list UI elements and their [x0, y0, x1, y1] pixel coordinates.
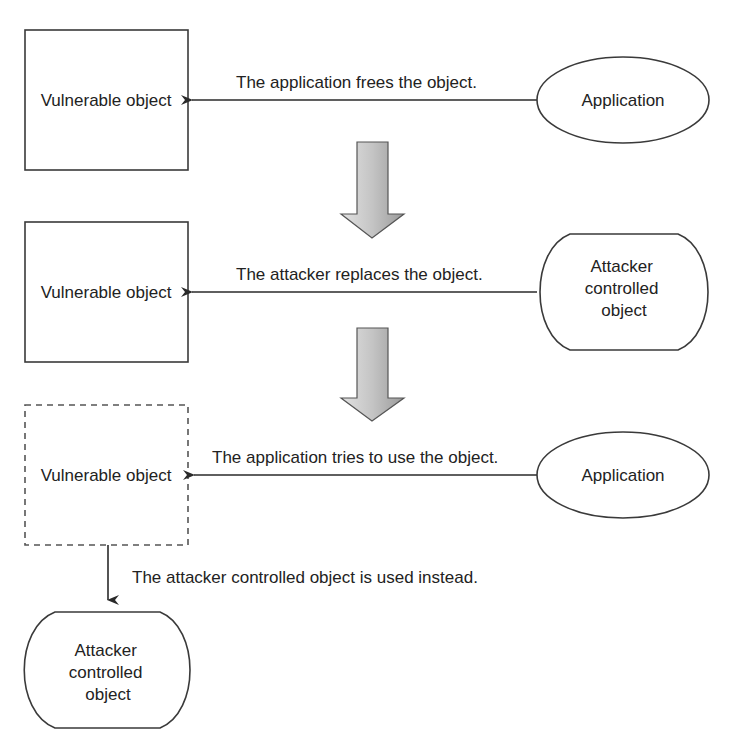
application-label-1: Application	[581, 91, 664, 110]
attacker-object-line: controlled	[69, 663, 143, 682]
attacker-object-line: object	[85, 685, 131, 704]
attacker-object-line: Attacker	[590, 257, 653, 276]
attacker-object-line: Attacker	[74, 641, 137, 660]
attacker-object-line: object	[601, 301, 647, 320]
edge-label-1: The application frees the object.	[236, 73, 477, 92]
vulnerable-object-label-1: Vulnerable object	[41, 91, 172, 110]
diagram-canvas: Vulnerable object The application frees …	[0, 0, 729, 749]
vulnerable-object-label-3: Vulnerable object	[41, 466, 172, 485]
edge-label-final: The attacker controlled object is used i…	[132, 568, 478, 587]
final-step: The attacker controlled object is used i…	[24, 545, 478, 728]
step-3: Vulnerable object The application tries …	[25, 405, 709, 545]
down-arrow-icon-1	[341, 142, 404, 238]
edge-label-2: The attacker replaces the object.	[236, 265, 483, 284]
application-label-2: Application	[581, 466, 664, 485]
vulnerable-object-label-2: Vulnerable object	[41, 283, 172, 302]
attacker-object-line: controlled	[585, 279, 659, 298]
down-arrow-icon-2	[341, 328, 404, 421]
edge-label-3: The application tries to use the object.	[212, 448, 498, 467]
